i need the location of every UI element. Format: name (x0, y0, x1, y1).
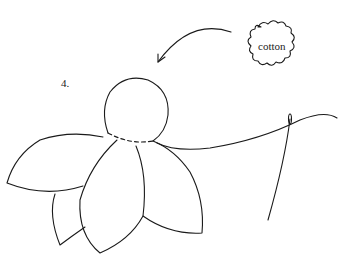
right-petal (143, 141, 203, 233)
dashed-neck-line (108, 133, 153, 142)
cotton-label: cotton (258, 40, 286, 52)
curved-arrow-icon (158, 29, 231, 62)
step-number-label: 4. (61, 77, 69, 89)
sewing-diagram (0, 0, 353, 254)
center-petal (80, 140, 145, 253)
thread-line (157, 114, 337, 149)
doll-head (104, 78, 168, 141)
needle-icon (268, 119, 290, 220)
left-petal (7, 134, 103, 191)
